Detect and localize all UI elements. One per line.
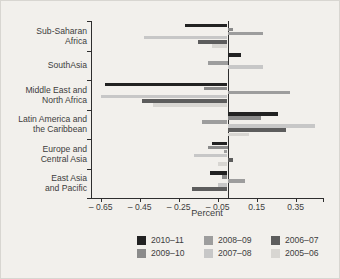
legend-row: 2010–112008–092006–07 (137, 235, 338, 245)
legend-label: 2009–10 (151, 248, 184, 258)
bar (228, 91, 290, 95)
legend-label: 2010–11 (151, 235, 184, 245)
y-axis-category-label: Europe andCentral Asia (1, 144, 87, 164)
legend-item: 2009–10 (137, 248, 204, 258)
bar (228, 116, 261, 120)
legend-swatch (204, 249, 213, 258)
y-axis-category-line: the Caribbean (1, 124, 87, 134)
legend-swatch (137, 236, 146, 245)
bar (212, 44, 228, 48)
y-axis-tick (87, 198, 91, 199)
bar (228, 179, 246, 183)
y-axis-tick (87, 169, 91, 170)
legend-swatch (204, 236, 213, 245)
bar (194, 154, 227, 158)
bar (228, 158, 234, 162)
legend-swatch (271, 249, 280, 258)
y-axis-category-line: Europe and (1, 144, 87, 154)
y-axis-category-line: Middle East and (1, 85, 87, 95)
legend-item: 2010–11 (137, 235, 204, 245)
zero-baseline (228, 21, 229, 198)
x-axis-line (91, 198, 324, 199)
y-axis-category-line: SouthAsia (1, 60, 87, 70)
legend-item: 2007–08 (204, 248, 271, 258)
chart: – 0.65– 0.45– 0.25– 0.050.150.35Sub-Saha… (0, 0, 340, 279)
bar (228, 65, 263, 69)
y-axis-tick (87, 51, 91, 52)
bar (202, 120, 227, 124)
legend-item: 2008–09 (204, 235, 271, 245)
y-axis-category-label: Sub-SaharanAfrica (1, 26, 87, 46)
bar (218, 162, 228, 166)
legend: 2010–112008–092006–072009–102007–082005–… (137, 235, 338, 258)
y-axis-category-line: Central Asia (1, 154, 87, 164)
y-axis-category-label: East Asiaand Pacific (1, 173, 87, 193)
legend-item: 2005–06 (271, 248, 338, 258)
legend-swatch (271, 236, 280, 245)
legend-row: 2009–102007–082005–06 (137, 248, 338, 258)
y-axis-tick (87, 139, 91, 140)
y-axis-category-line: and Pacific (1, 183, 87, 193)
bar (208, 61, 228, 65)
legend-label: 2006–07 (285, 235, 318, 245)
legend-swatch (137, 249, 146, 258)
bar (228, 133, 249, 137)
y-axis-line (91, 21, 92, 198)
y-axis-category-line: East Asia (1, 173, 87, 183)
y-axis-category-label: Middle East andNorth Africa (1, 85, 87, 105)
legend-item: 2006–07 (271, 235, 338, 245)
y-axis-category-line: Sub-Saharan (1, 26, 87, 36)
y-axis-category-label: SouthAsia (1, 60, 87, 70)
y-axis-tick (87, 80, 91, 81)
y-axis-tick (87, 21, 91, 22)
bar (185, 24, 228, 28)
bar (228, 32, 263, 36)
y-axis-category-line: Africa (1, 36, 87, 46)
y-axis-category-label: Latin America andthe Caribbean (1, 114, 87, 134)
y-axis-category-line: Latin America and (1, 114, 87, 124)
bar (228, 53, 242, 57)
legend-label: 2008–09 (218, 235, 251, 245)
bar (204, 87, 227, 91)
legend-label: 2007–08 (218, 248, 251, 258)
bar (153, 103, 227, 107)
x-axis-title: Percent (91, 208, 323, 218)
bar (192, 187, 227, 191)
y-axis-category-line: North Africa (1, 95, 87, 105)
y-axis-tick (87, 110, 91, 111)
x-axis-end-tick (323, 198, 324, 202)
legend-label: 2005–06 (285, 248, 318, 258)
